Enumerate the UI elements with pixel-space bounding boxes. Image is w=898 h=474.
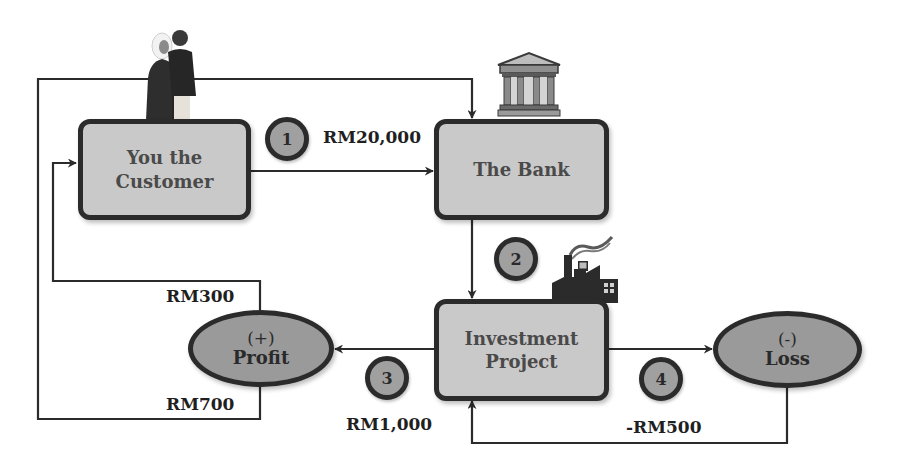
investment-label-line2: Project [465,350,579,373]
bank-label: The Bank [473,158,570,181]
node-customer: You the Customer [78,119,251,220]
profit-sign: (+) [247,329,275,348]
investment-label-line1: Investment [465,327,579,350]
step-badge-2: 2 [494,237,538,281]
amount-step-4: -RM500 [626,417,702,437]
customer-label-line1: You the [116,146,214,169]
amount-step-1: RM20,000 [323,127,421,147]
loss-sign: (-) [778,330,797,349]
bank-building-icon [496,51,562,117]
node-profit: (+) Profit [188,310,334,387]
amount-step-3: RM1,000 [346,414,432,434]
node-investment-project: Investment Project [434,299,609,401]
people-couple-icon [138,26,208,122]
amount-bank-share: RM700 [166,394,234,414]
connectors [0,0,898,474]
factory-icon [550,233,628,303]
customer-label-line2: Customer [116,170,214,193]
step-badge-4: 4 [639,357,683,401]
node-bank: The Bank [434,119,609,220]
loss-label: Loss [765,349,810,369]
step-badge-1: 1 [265,117,309,161]
step-badge-3: 3 [365,356,409,400]
node-loss: (-) Loss [713,311,862,388]
islamic-investment-flow-diagram: You the Customer The Bank Investment Pro… [0,0,898,474]
amount-customer-share: RM300 [166,286,234,306]
profit-label: Profit [233,348,289,368]
